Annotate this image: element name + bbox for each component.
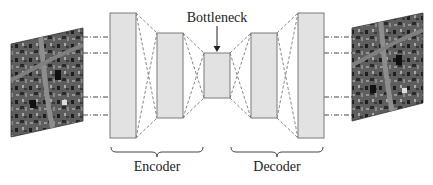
- output-connectors: [324, 37, 352, 115]
- encoder-layer-1: [110, 13, 136, 138]
- decoder-label: Decoder: [253, 160, 300, 174]
- output-image: [352, 13, 423, 125]
- decoder-layer-1: [251, 33, 277, 118]
- encoder-layer-2: [157, 33, 183, 118]
- autoencoder-diagram: [0, 0, 433, 185]
- bottleneck-label: Bottleneck: [187, 11, 248, 25]
- decoder-layer-2: [298, 13, 324, 138]
- decoder-brace: [231, 147, 323, 157]
- input-image: [11, 28, 83, 140]
- encoder-brace: [111, 147, 203, 157]
- bottleneck-arrow-icon: [214, 26, 221, 52]
- encoder-label: Encoder: [134, 160, 181, 174]
- input-connectors: [83, 37, 110, 115]
- bottleneck-layer: [204, 53, 230, 98]
